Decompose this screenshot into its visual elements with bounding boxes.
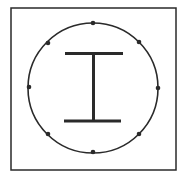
reinforcing-bar-dot xyxy=(27,85,32,90)
reinforcing-bar-dot xyxy=(137,40,142,45)
steel-i-beam xyxy=(64,52,123,123)
i-beam-bottom-flange xyxy=(64,120,121,123)
reinforcing-bar-dot xyxy=(46,132,51,137)
reinforcing-bar-dot xyxy=(91,150,96,155)
i-beam-web xyxy=(92,54,95,121)
reinforcing-bar-dot xyxy=(156,86,161,91)
reinforcing-bar-dot xyxy=(137,132,142,137)
reinforcing-bar-dot xyxy=(46,41,51,46)
reinforcing-bar-dot xyxy=(91,21,96,26)
cross-section-diagram xyxy=(0,0,182,179)
